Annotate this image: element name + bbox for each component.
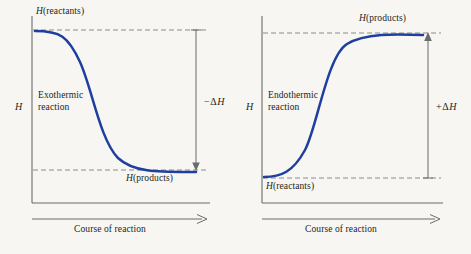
- lower-level-label: H(reactants): [266, 181, 314, 193]
- exothermic-plot-svg: [0, 0, 236, 254]
- upper-level-label-h: H: [36, 6, 43, 16]
- y-axis-label: H: [246, 101, 253, 114]
- lower-level-label-h: H: [266, 181, 273, 191]
- x-axis-caption: Course of reaction: [74, 224, 146, 236]
- delta-h-sign: −: [204, 96, 210, 107]
- y-axis-label: H: [15, 101, 22, 114]
- reaction-type-line1: Exothermic: [38, 90, 83, 100]
- reaction-type-label: Exothermic reaction: [38, 89, 83, 114]
- endothermic-panel: H(products) H(reactants) H Endothermic r…: [235, 0, 471, 254]
- reaction-type-line2: reaction: [268, 102, 299, 112]
- delta-h-label: +ΔH: [436, 101, 457, 114]
- delta-h-h: H: [217, 96, 224, 107]
- x-axis-caption: Course of reaction: [305, 224, 377, 236]
- upper-level-label-paren: (products): [366, 13, 406, 23]
- lower-level-label: H(products): [126, 173, 173, 185]
- delta-h-label: −ΔH: [204, 96, 225, 109]
- reaction-type-line2: reaction: [38, 102, 69, 112]
- exothermic-panel: H(reactants) H(products) H Exothermic re…: [0, 0, 236, 254]
- delta-h-sign: +: [436, 101, 442, 112]
- endothermic-plot-svg: [235, 0, 471, 254]
- lower-level-label-paren: (reactants): [273, 181, 314, 191]
- upper-level-label: H(reactants): [36, 6, 84, 18]
- reaction-type-line1: Endothermic: [268, 90, 318, 100]
- lower-level-label-h: H: [126, 173, 133, 183]
- delta-h-h: H: [449, 101, 456, 112]
- upper-level-label-h: H: [359, 13, 366, 23]
- reaction-type-label: Endothermic reaction: [268, 89, 318, 114]
- lower-level-label-paren: (products): [133, 173, 173, 183]
- upper-level-label: H(products): [359, 13, 406, 25]
- upper-level-label-paren: (reactants): [43, 6, 84, 16]
